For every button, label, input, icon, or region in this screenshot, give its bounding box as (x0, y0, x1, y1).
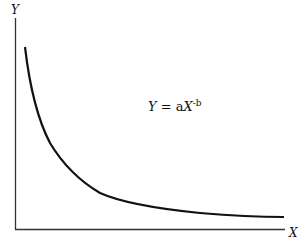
x-axis-label: X (289, 226, 298, 240)
power-curve (25, 47, 284, 217)
equation-var: X (184, 99, 193, 114)
equation-label: Y = aX-b (148, 98, 202, 114)
equation-eq: = a (157, 99, 184, 114)
y-axis-label: Y (11, 3, 19, 17)
equation-exponent: -b (193, 98, 202, 108)
plot-area (0, 0, 300, 249)
power-law-diagram: Y X Y = aX-b (0, 0, 300, 249)
equation-lhs: Y (148, 99, 157, 114)
